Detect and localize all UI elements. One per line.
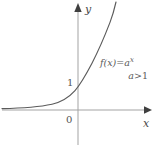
function-annotation: f(x)=ax a>1 xyxy=(100,54,156,82)
function-equation-line: f(x)=ax xyxy=(100,54,156,69)
x-axis-arrow-icon xyxy=(144,106,152,114)
origin-label: 0 xyxy=(66,115,72,125)
exponential-curve xyxy=(2,2,116,109)
condition-operator-text: > xyxy=(134,70,142,81)
exponential-function-figure: y x 1 0 f(x)=ax a>1 xyxy=(0,0,156,147)
y-intercept-tick-label: 1 xyxy=(67,78,73,88)
condition-line: a>1 xyxy=(100,69,156,82)
condition-value-text: 1 xyxy=(142,70,148,81)
x-axis-label: x xyxy=(143,118,149,129)
y-axis-arrow-icon xyxy=(74,3,81,12)
function-base-text: f(x) xyxy=(100,57,116,68)
function-exponent-text: x xyxy=(130,56,134,64)
y-axis-label: y xyxy=(85,4,91,15)
